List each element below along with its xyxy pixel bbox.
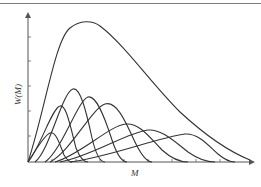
y-axis-label: W(M) <box>13 84 23 105</box>
x-axis-label: M <box>130 168 139 178</box>
chart: M W(M) <box>0 0 261 187</box>
